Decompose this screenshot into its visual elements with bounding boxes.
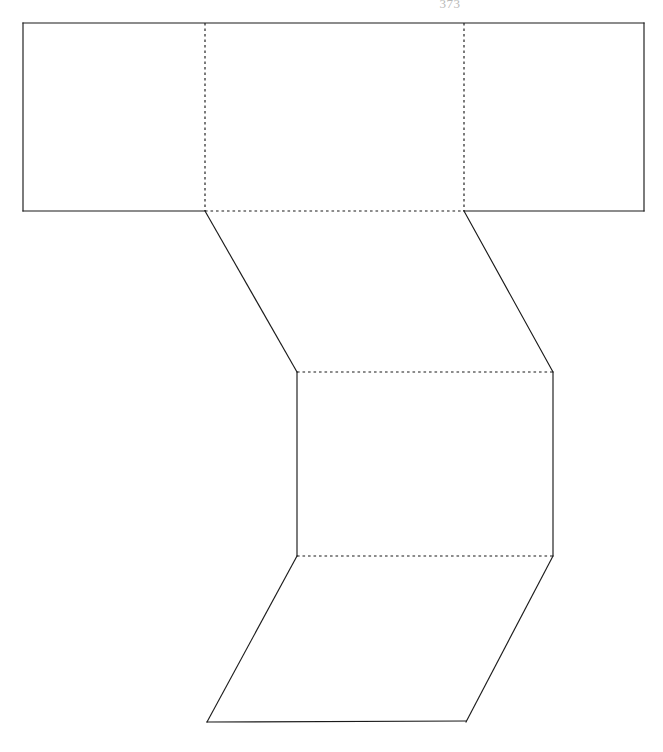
face-left-slant-face — [205, 211, 553, 372]
face-center-rectangle-face — [297, 372, 553, 556]
face-bottom-parallelogram-face — [207, 556, 553, 722]
net-figure — [0, 0, 663, 752]
page-canvas: 373 — [0, 0, 663, 752]
face-top-band-middle-face — [205, 23, 464, 211]
face-top-band-right-face — [464, 23, 644, 211]
face-top-band-left-face — [23, 23, 205, 211]
